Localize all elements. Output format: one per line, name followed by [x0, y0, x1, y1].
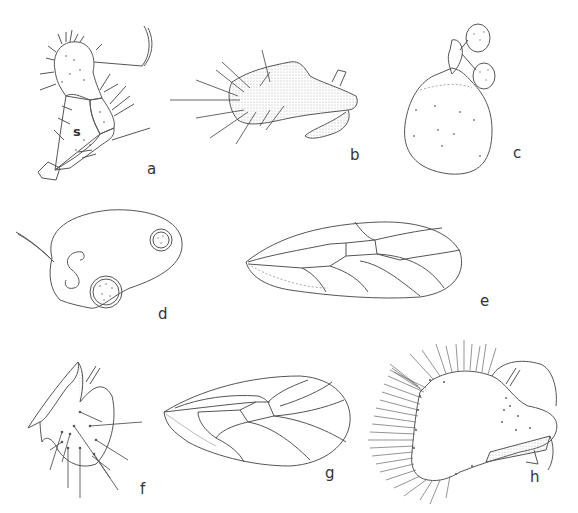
- paramere-drawing: [160, 20, 380, 200]
- forewing-venation-drawing: [230, 200, 578, 350]
- panel-label-b: b: [350, 148, 360, 163]
- panel-a: s a: [0, 0, 180, 200]
- panel-label-e: e: [480, 294, 489, 309]
- panel-label-d: d: [158, 307, 168, 322]
- panel-label-g: g: [325, 466, 335, 481]
- panel-label-h: h: [530, 470, 540, 485]
- terminalia-drawing: [0, 350, 150, 513]
- subgenital-plate-drawing: [360, 340, 578, 513]
- annotation-s: s: [73, 125, 81, 138]
- panel-c: c: [380, 10, 578, 210]
- panel-b: b: [160, 20, 380, 200]
- panel-g: g: [140, 360, 360, 500]
- panel-label-c: c: [513, 146, 521, 161]
- panel-h: h: [360, 340, 578, 513]
- panel-label-a: a: [147, 162, 156, 177]
- panel-e: e: [230, 200, 578, 350]
- spermatheca-drawing: [380, 10, 578, 210]
- panel-d: d: [0, 200, 230, 360]
- panel-f: f: [0, 350, 150, 513]
- sac-drawing: [0, 200, 230, 360]
